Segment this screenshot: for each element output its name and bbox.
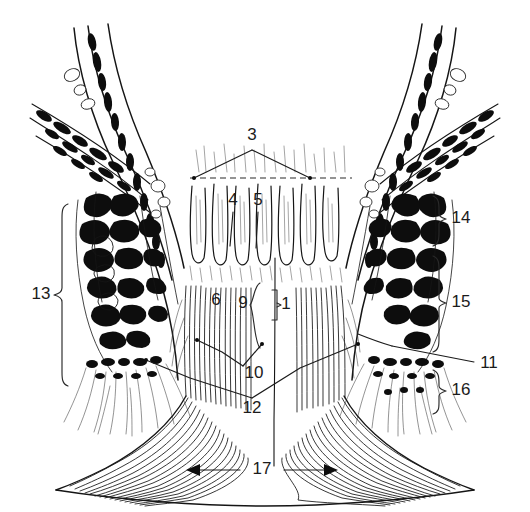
label-12: 12 [243, 398, 262, 417]
label-11: 11 [480, 353, 498, 372]
anal-canal-coronal-section: 1 3 4 5 6 9 10 11 12 13 14 15 16 17 [0, 0, 530, 512]
label-1: 1 [281, 294, 290, 313]
figure-background [0, 0, 530, 512]
label-3: 3 [247, 125, 256, 144]
anatomical-figure: 1 3 4 5 6 9 10 11 12 13 14 15 16 17 [0, 0, 530, 512]
label-17: 17 [253, 459, 272, 478]
label-9: 9 [238, 293, 247, 312]
label-10: 10 [245, 363, 264, 382]
label-13: 13 [32, 284, 51, 303]
label-15: 15 [452, 292, 471, 311]
label-4: 4 [228, 190, 237, 209]
label-5: 5 [253, 190, 262, 209]
label-14: 14 [452, 208, 471, 227]
label-16: 16 [452, 380, 471, 399]
label-6: 6 [211, 290, 220, 309]
